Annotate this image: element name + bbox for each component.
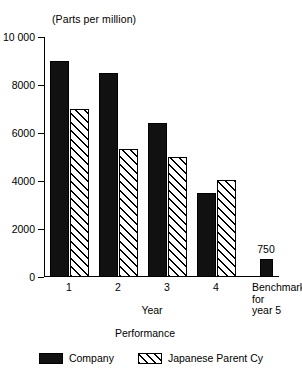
x-axis-category-label: 2 [115, 282, 121, 294]
bar-value-label: 750 [257, 243, 275, 255]
x-axis-category-label-line: Benchmark [252, 282, 302, 294]
legend-entry[interactable]: Japanese Parent Cy [138, 352, 263, 364]
x-axis-category-label: 1 [66, 282, 72, 294]
x-axis-category-label: 3 [164, 282, 170, 294]
legend-label: Company [69, 352, 114, 364]
y-axis-tick-label: 4000 [12, 176, 35, 187]
bar-parent [70, 109, 89, 277]
x-axis-category-label: 4 [213, 282, 219, 294]
y-axis-tick-label: 8000 [12, 80, 35, 91]
y-axis-tick-mark [38, 277, 44, 278]
legend-swatch-icon [138, 353, 162, 364]
bar-parent [217, 180, 236, 277]
bar-company [260, 259, 273, 277]
x-axis-category-label: Benchmarkforyear 5 [252, 282, 302, 317]
x-axis-category-label-line: year 5 [252, 305, 302, 317]
bar-company [99, 73, 118, 277]
y-axis-tick-label: 6000 [12, 128, 35, 139]
bar-company [50, 61, 69, 277]
bar-parent [168, 157, 187, 277]
x-axis-title-year: Year [141, 304, 162, 316]
chart-legend: CompanyJapanese Parent Cy [0, 352, 302, 364]
y-axis-tick-label: 10 000 [3, 32, 35, 43]
x-axis-title-performance: Performance [115, 327, 175, 339]
bar-company [197, 193, 216, 277]
bar-parent [119, 149, 138, 277]
bar-chart-figure: (Parts per million) 10 00080006000400020… [0, 0, 302, 373]
plot-area: 750 [44, 37, 279, 277]
legend-label: Japanese Parent Cy [168, 352, 263, 364]
unit-caption: (Parts per million) [52, 13, 136, 25]
y-axis-tick-label: 2000 [12, 224, 35, 235]
legend-swatch-icon [39, 353, 63, 364]
bar-company [148, 123, 167, 277]
legend-entry[interactable]: Company [39, 352, 114, 364]
y-axis-tick-label: 0 [29, 272, 35, 283]
